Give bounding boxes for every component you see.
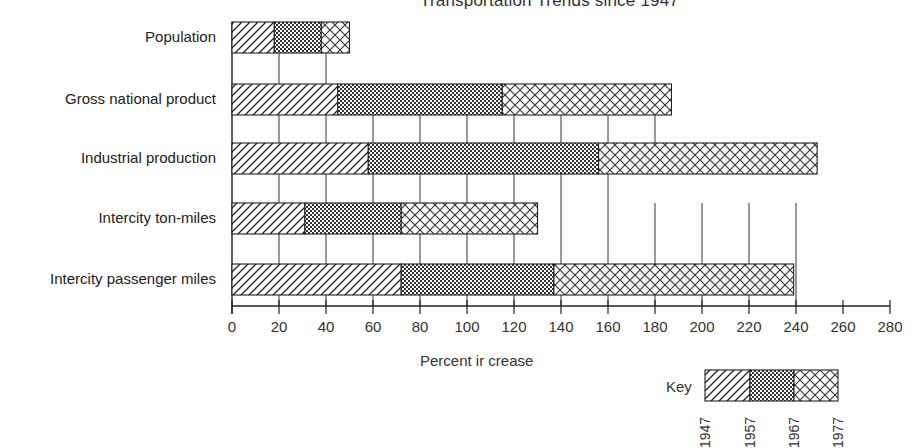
category-label: Population: [145, 28, 216, 45]
bar-segment: [368, 143, 598, 174]
x-tick-label: 160: [595, 318, 620, 335]
x-tick-label: 260: [830, 318, 855, 335]
bar-segment: [232, 84, 338, 115]
bar-segment: [232, 264, 401, 295]
x-tick-label: 140: [548, 318, 573, 335]
bar-segment: [305, 203, 401, 234]
bar-segment: [401, 203, 537, 234]
legend-year: 1947: [697, 417, 713, 448]
x-tick-label: 40: [318, 318, 335, 335]
x-tick-label: 220: [736, 318, 761, 335]
legend-title: Key: [666, 378, 692, 395]
x-tick-label: 60: [365, 318, 382, 335]
bar-segment: [321, 22, 349, 53]
legend-year: 1957: [742, 417, 758, 448]
x-tick-label: 240: [783, 318, 808, 335]
x-axis: [232, 300, 890, 314]
bar-segment: [338, 84, 503, 115]
bar-segment: [502, 84, 671, 115]
bar-segment: [599, 143, 818, 174]
category-label: Intercity ton-miles: [98, 209, 216, 226]
category-label: Gross national product: [65, 90, 216, 107]
x-tick-label: 80: [412, 318, 429, 335]
x-axis-label: Percent ir crease: [420, 352, 533, 369]
x-tick-label: 120: [501, 318, 526, 335]
bars: [232, 22, 817, 295]
bar-segment: [232, 143, 368, 174]
bar-segment: [401, 264, 554, 295]
bar-segment: [554, 264, 794, 295]
legend-year: 1977: [830, 417, 846, 448]
legend-year: 1967: [786, 417, 802, 448]
x-tick-label: 100: [454, 318, 479, 335]
x-tick-label: 20: [271, 318, 288, 335]
x-tick-label: 180: [642, 318, 667, 335]
bar-segment: [232, 203, 305, 234]
category-label: Industrial production: [81, 149, 216, 166]
x-tick-label: 200: [689, 318, 714, 335]
category-label: Intercity passenger miles: [50, 270, 216, 287]
bar-segment: [274, 22, 321, 53]
x-tick-label: 0: [228, 318, 236, 335]
x-tick-label: 280: [877, 318, 902, 335]
legend-key: [705, 370, 838, 401]
bar-segment: [232, 22, 274, 53]
